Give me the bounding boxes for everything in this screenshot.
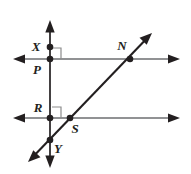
bottom-line-left-arrowhead [13, 113, 25, 122]
right-angle-at-r [52, 107, 61, 118]
point-x-dot [47, 44, 54, 51]
geometry-diagram: X P N R S Y [0, 0, 191, 174]
diagonal-transversal-ns [28, 33, 152, 162]
geometry-diagram-container: X P N R S Y [0, 0, 191, 174]
right-angle-at-p [52, 48, 61, 59]
point-p-dot [47, 56, 54, 63]
vertical-line-bottom-arrowhead [45, 156, 54, 169]
label-p: P [33, 62, 42, 77]
label-x: X [31, 39, 41, 54]
label-r: R [33, 100, 43, 115]
top-line-left-arrowhead [13, 54, 25, 63]
labels-group: X P N R S Y [31, 38, 128, 156]
top-line-right-arrowhead [168, 54, 180, 63]
bottom-line-right-arrowhead [168, 113, 180, 122]
point-y-dot [47, 137, 54, 144]
vertical-line-top-arrowhead [45, 20, 54, 33]
point-n-dot [127, 56, 134, 63]
label-n: N [116, 38, 127, 53]
point-r-dot [47, 115, 54, 122]
label-y: Y [54, 141, 63, 156]
label-s: S [71, 121, 78, 136]
